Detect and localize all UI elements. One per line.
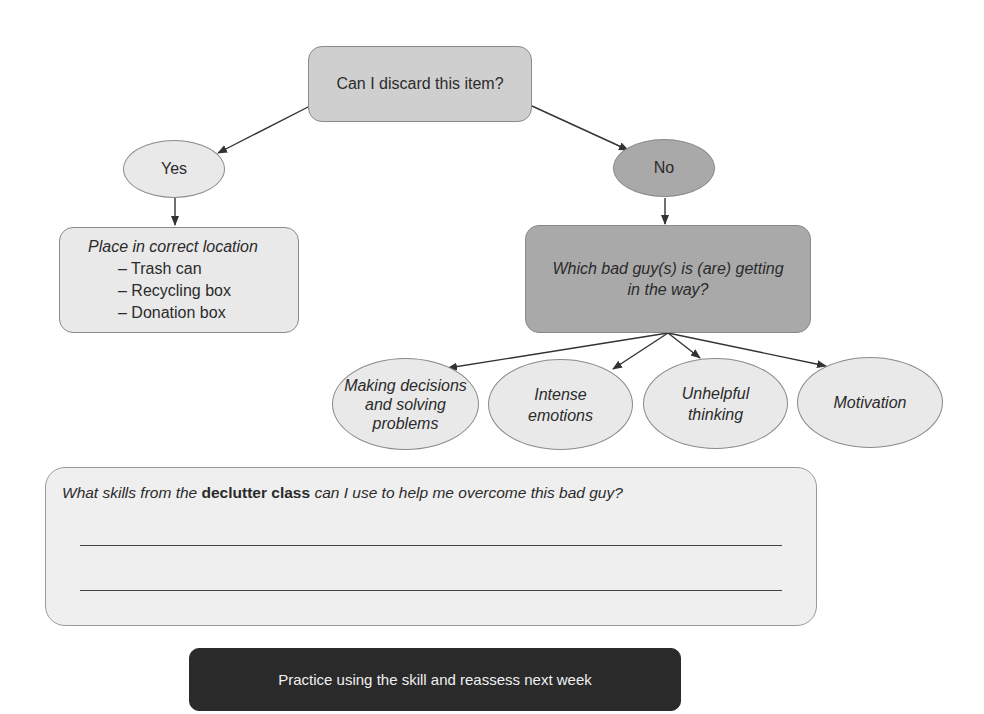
skills-prompt-box: What skills from the declutter class can… xyxy=(45,467,817,626)
yes-action-item: – Recycling box xyxy=(88,280,231,302)
answer-line-2[interactable] xyxy=(80,590,782,591)
yes-action-item: – Donation box xyxy=(88,302,226,324)
bad-guy-thinking: Unhelpful thinking xyxy=(643,358,788,449)
bad-guy-label: Unhelpful thinking xyxy=(676,383,755,425)
final-step-box: Practice using the skill and reassess ne… xyxy=(189,648,681,711)
yes-action-item: – Trash can xyxy=(88,258,202,280)
bad-guy-question-label: Which bad guy(s) is (are) getting in the… xyxy=(544,258,792,300)
yes-action-title: Place in correct location xyxy=(88,236,258,258)
bad-guy-emotions: Intense emotions xyxy=(488,359,633,450)
root-question-node: Can I discard this item? xyxy=(308,46,532,122)
final-step-label: Practice using the skill and reassess ne… xyxy=(278,671,591,688)
answer-line-1[interactable] xyxy=(80,545,782,546)
yes-label: Yes xyxy=(161,160,187,178)
yes-node: Yes xyxy=(123,140,225,198)
bad-guy-motivation: Motivation xyxy=(797,357,943,448)
bad-guy-decisions: Making decisions and solving problems xyxy=(332,358,479,450)
no-node: No xyxy=(613,139,715,197)
bad-guy-label: Making decisions and solving problems xyxy=(343,376,468,433)
bad-guy-label: Intense emotions xyxy=(521,384,600,426)
yes-action-box: Place in correct location – Trash can – … xyxy=(59,227,299,333)
root-question-label: Can I discard this item? xyxy=(336,75,503,93)
bad-guy-label: Motivation xyxy=(834,394,907,412)
no-label: No xyxy=(654,159,674,177)
skills-prompt-text: What skills from the declutter class can… xyxy=(62,484,623,502)
skills-prompt-bold: declutter class xyxy=(202,484,311,501)
bad-guy-question-box: Which bad guy(s) is (are) getting in the… xyxy=(525,225,811,333)
